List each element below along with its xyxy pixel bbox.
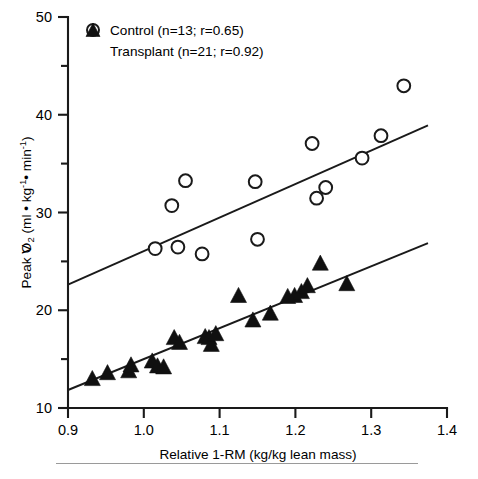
x-tick-label-1.4: 1.4 bbox=[437, 422, 457, 438]
data-point-control bbox=[165, 199, 178, 212]
x-tick-label-1.0: 1.0 bbox=[134, 422, 154, 438]
x-axis-title: Relative 1-RM (kg/kg lean mass) bbox=[159, 447, 356, 462]
data-point-transplant bbox=[123, 357, 139, 372]
data-point-control bbox=[149, 242, 162, 255]
data-point-control bbox=[251, 233, 264, 246]
data-point-transplant bbox=[245, 312, 261, 327]
data-point-control bbox=[356, 152, 369, 165]
y-title-sup2: -1 bbox=[18, 141, 28, 149]
y-title-kg: kg bbox=[19, 188, 34, 206]
data-point-control bbox=[196, 248, 209, 261]
data-point-control bbox=[397, 79, 410, 92]
legend-label-control: Control (n=13; r=0.65) bbox=[110, 23, 244, 38]
x-tick-label-0.9: 0.9 bbox=[58, 422, 78, 438]
control-series bbox=[149, 79, 410, 260]
bottom-divider bbox=[56, 463, 418, 464]
data-point-control bbox=[172, 241, 185, 254]
data-point-control bbox=[310, 192, 323, 205]
data-point-transplant bbox=[231, 287, 247, 302]
data-point-control bbox=[375, 129, 388, 142]
y-tick-label-30: 30 bbox=[36, 205, 52, 221]
y-title-sup1: -1 bbox=[18, 180, 28, 188]
data-point-transplant bbox=[312, 255, 328, 270]
y-title-o: O bbox=[19, 243, 34, 254]
data-point-control bbox=[179, 174, 192, 187]
y-axis-title: Peak V̇O2 (ml • kg-1• min-1) bbox=[18, 137, 36, 289]
legend-label-transplant: Transplant (n=21; r=0.92) bbox=[110, 44, 264, 59]
x-tick-label-1.3: 1.3 bbox=[361, 422, 381, 438]
y-axis bbox=[58, 17, 68, 408]
legend: Control (n=13; r=0.65) Transplant (n=21;… bbox=[86, 23, 264, 59]
data-point-control bbox=[306, 137, 319, 150]
y-tick-label-50: 50 bbox=[36, 9, 52, 25]
svg-text:Peak V̇O2 (ml • kg-1• min-1): Peak V̇O2 (ml • kg-1• min-1) bbox=[18, 137, 36, 289]
control-regression-line bbox=[68, 125, 428, 284]
scatter-plot-figure: 50 40 30 20 10 0.9 1.0 1.1 1.2 1.3 1.4 R… bbox=[0, 0, 478, 479]
y-title-ml: (ml bbox=[19, 211, 34, 237]
y-tick-label-20: 20 bbox=[36, 302, 52, 318]
x-tick-label-1.2: 1.2 bbox=[285, 422, 305, 438]
data-point-control bbox=[249, 175, 262, 188]
x-axis bbox=[68, 408, 447, 418]
y-tick-label-10: 10 bbox=[36, 400, 52, 416]
y-tick-label-40: 40 bbox=[36, 107, 52, 123]
x-tick-label-1.1: 1.1 bbox=[210, 422, 230, 438]
data-point-transplant bbox=[262, 305, 278, 320]
plot-canvas: 50 40 30 20 10 0.9 1.0 1.1 1.2 1.3 1.4 R… bbox=[0, 0, 478, 479]
y-title-close: ) bbox=[19, 137, 34, 142]
transplant-regression-line bbox=[68, 243, 428, 390]
data-point-control bbox=[319, 181, 332, 194]
y-title-min: min bbox=[19, 149, 34, 175]
